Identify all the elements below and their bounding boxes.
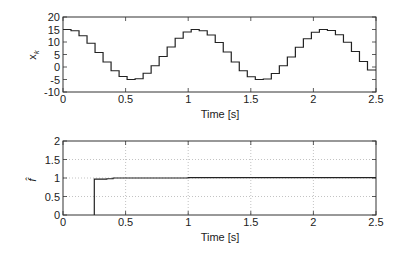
x-tick-label: 1	[185, 216, 191, 228]
figure: 00.511.522.5-10-505101520 Time [s] xk 00…	[0, 0, 404, 255]
x-tick-label: 2	[310, 216, 316, 228]
y-tick-label: 0.5	[45, 191, 60, 203]
top-plot-xk: 00.511.522.5-10-505101520 Time [s] xk	[26, 11, 384, 120]
top-ticks	[63, 17, 376, 92]
bottom-tick-labels: 00.511.522.500.511.52	[45, 135, 384, 228]
x-tick-label: 2	[310, 93, 316, 105]
bottom-ylabel: f̂	[25, 177, 38, 182]
y-tick-label: 0	[54, 61, 60, 73]
y-tick-label: 20	[48, 11, 60, 23]
top-tick-labels: 00.511.522.5-10-505101520	[44, 11, 384, 105]
bottom-plot-fhat: 00.511.522.500.511.52 Time [s] f̂	[25, 135, 383, 243]
x-tick-label: 1.5	[243, 216, 258, 228]
top-plot-frame	[63, 17, 376, 92]
y-tick-label: 15	[48, 24, 60, 36]
x-tick-label: 2.5	[368, 93, 383, 105]
y-tick-label: 10	[48, 36, 60, 48]
x-tick-label: 1.5	[243, 93, 258, 105]
x-tick-label: 0.5	[118, 216, 133, 228]
x-tick-label: 0.5	[118, 93, 133, 105]
y-tick-label: 2	[54, 135, 60, 147]
top-ylabel: xk	[26, 49, 41, 60]
x-tick-label: 0	[60, 93, 66, 105]
bottom-xlabel: Time [s]	[201, 231, 240, 243]
x-tick-label: 2.5	[368, 216, 383, 228]
top-series-xk	[63, 30, 376, 80]
top-xlabel: Time [s]	[201, 108, 240, 120]
y-tick-label: -5	[50, 74, 60, 86]
y-tick-label: 1	[54, 172, 60, 184]
x-tick-label: 0	[60, 216, 66, 228]
x-tick-label: 1	[185, 93, 191, 105]
y-tick-label: 1.5	[45, 154, 60, 166]
y-tick-label: 0	[54, 209, 60, 221]
y-tick-label: 5	[54, 49, 60, 61]
y-tick-label: -10	[44, 86, 60, 98]
